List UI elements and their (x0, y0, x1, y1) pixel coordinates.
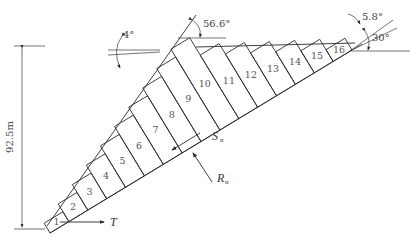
slice-label-9: 9 (185, 93, 191, 104)
slice-label-10: 10 (199, 78, 211, 89)
slice-label-11: 11 (223, 75, 235, 86)
slice-label-16: 16 (333, 44, 345, 55)
angle-arc-4 (116, 36, 122, 68)
shear-arrow (172, 133, 200, 150)
slice-label-3: 3 (86, 186, 92, 197)
slice-label-2: 2 (70, 201, 76, 212)
slice-label-12: 12 (245, 69, 257, 80)
slice-label-7: 7 (152, 124, 158, 135)
angle-5-8-label: 5.8° (362, 11, 383, 22)
slice-label-8: 8 (169, 109, 175, 120)
reaction-subscript: n (225, 178, 229, 186)
slice-label-15: 15 (311, 50, 323, 61)
slices: 12345678910111213141516 (44, 38, 352, 233)
angle-marks: 56.6° 4° 5.8° 30° (116, 11, 389, 68)
angle-arc-56 (192, 20, 200, 37)
slice-label-5: 5 (119, 155, 125, 166)
slope-outline (47, 15, 410, 233)
angle-4-label: 4° (123, 29, 134, 40)
angle-arc-5-8 (348, 14, 360, 24)
angle-arc-30 (365, 31, 369, 50)
forces: T S n R n (60, 129, 229, 229)
slice-label-14: 14 (289, 56, 301, 67)
shear-subscript: n (220, 136, 224, 144)
slope-face-line (47, 15, 196, 226)
angle-56-label: 56.6° (203, 18, 230, 29)
reaction-arrow (193, 153, 212, 182)
thrust-label: T (110, 215, 118, 229)
slope-diagram: 92.5m 56.6° 4° 5.8° 30° 1234567891011121… (0, 0, 410, 241)
reaction-label: R (216, 171, 225, 185)
height-label: 92.5m (4, 121, 15, 153)
height-dimension: 92.5m (4, 46, 45, 229)
slice-label-6: 6 (136, 140, 142, 151)
slice-label-4: 4 (103, 170, 109, 181)
angle-30-label: 30° (372, 32, 390, 43)
shear-label: S (212, 129, 218, 143)
crest-ref-tilt (108, 52, 160, 55)
slice-label-1: 1 (53, 216, 59, 227)
slice-label-13: 13 (267, 63, 279, 74)
